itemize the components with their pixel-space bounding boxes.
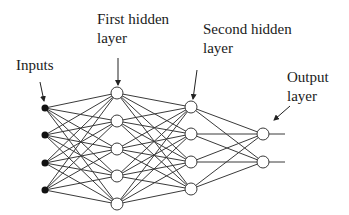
connection-edge xyxy=(191,107,263,134)
connection-edge xyxy=(117,107,191,176)
first-hidden-node xyxy=(111,170,123,182)
output-node xyxy=(257,156,269,168)
first-hidden-label-line2: layer xyxy=(97,30,127,46)
second-hidden-label-line2: layer xyxy=(203,40,233,56)
second-hidden-arrow xyxy=(193,70,197,99)
output-arrow xyxy=(274,106,290,120)
connection-edge xyxy=(45,176,117,190)
inputs-label: Inputs xyxy=(16,57,54,73)
input-node xyxy=(42,160,49,167)
second-hidden-node xyxy=(185,128,197,140)
connection-edge xyxy=(45,93,117,108)
connections xyxy=(45,93,285,204)
connection-edge xyxy=(45,93,117,163)
connection-edge xyxy=(45,190,117,204)
connection-edge xyxy=(117,134,191,204)
output-node xyxy=(257,128,269,140)
connection-edge xyxy=(191,162,263,189)
first-hidden-node xyxy=(111,87,123,99)
neural-network-diagram: Inputs First hidden layer Second hidden … xyxy=(0,0,349,215)
output-label-line2: layer xyxy=(287,88,317,104)
inputs-arrow xyxy=(40,82,44,101)
input-node xyxy=(42,187,49,194)
second-hidden-node xyxy=(185,183,197,195)
first-hidden-node xyxy=(111,198,123,210)
input-node xyxy=(42,105,49,112)
first-hidden-node xyxy=(111,115,123,127)
first-hidden-label-line1: First hidden xyxy=(97,11,170,27)
first-hidden-node xyxy=(111,143,123,155)
input-node xyxy=(42,132,49,139)
connection-edge xyxy=(117,107,191,121)
output-label-line1: Output xyxy=(287,69,330,85)
connection-edge xyxy=(117,189,191,204)
connection-edge xyxy=(117,93,191,107)
second-hidden-node xyxy=(185,101,197,113)
second-hidden-node xyxy=(185,156,197,168)
second-hidden-label-line1: Second hidden xyxy=(203,21,292,37)
